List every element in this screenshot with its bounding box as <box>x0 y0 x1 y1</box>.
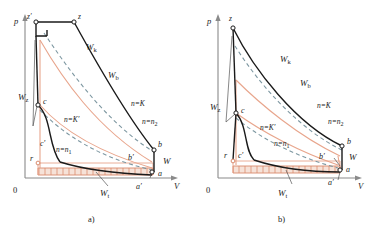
point-label-r: r <box>224 151 228 160</box>
panel-a-plot: p V 0 z′ z c c′ b b′ a a′ r Wk Wb Wz Wt … <box>0 0 188 235</box>
work-label-Wt: Wt <box>100 188 110 199</box>
point-label-b: b <box>158 140 162 149</box>
point-label-b: b <box>347 137 351 146</box>
work-label-Wz: Wz <box>210 102 221 113</box>
point-label-r: r <box>30 154 34 163</box>
work-label-W: W <box>349 152 358 162</box>
cycle-outline <box>233 28 342 172</box>
axis-label-V: V <box>174 181 181 191</box>
curve-label-n-equals-K: n=K <box>317 101 332 110</box>
hatched-work-band <box>38 163 153 175</box>
point-label-c: c <box>241 106 245 115</box>
marker-a <box>150 170 154 174</box>
curve-label-n-equals-n2: n=n2 <box>328 117 344 127</box>
panel-b-plot: p V 0 z c c′ b b′ a a′ r Wk Wb Wz Wt W n… <box>188 0 376 235</box>
marker-a <box>338 168 342 172</box>
work-label-W: W <box>163 156 172 166</box>
curve-label-n-equals-K: n=K <box>131 99 146 108</box>
point-label-c: c <box>43 97 47 106</box>
figure-sheet: p V 0 z′ z c c′ b b′ a a′ r Wk Wb Wz Wt … <box>0 0 376 235</box>
curve-label-n-equals-n2: n=n2 <box>142 117 158 127</box>
point-label-a-prime: a′ <box>136 182 142 191</box>
curve-label-n-equals-K-prime: n=K′ <box>260 123 276 132</box>
work-label-Wt: Wt <box>278 188 288 199</box>
axis-label-p: p <box>13 16 18 26</box>
work-label-Wz: Wz <box>18 92 29 103</box>
panel-a-caption: a) <box>88 214 95 224</box>
panel-b-caption: b) <box>278 214 285 224</box>
point-label-c-prime: c′ <box>238 151 244 160</box>
work-label-Wk: Wk <box>280 54 292 65</box>
marker-r <box>231 159 235 163</box>
marker-b <box>152 148 156 152</box>
point-label-b-prime: b′ <box>128 153 134 162</box>
axis-label-p: p <box>206 16 211 26</box>
state-point-markers <box>231 26 344 172</box>
point-label-c-prime: c′ <box>40 139 46 148</box>
marker-b <box>340 144 344 148</box>
marker-c <box>36 103 40 107</box>
marker-c <box>234 111 238 115</box>
axis-origin-label: 0 <box>206 185 210 195</box>
point-label-a: a <box>158 169 162 178</box>
point-label-z-prime: z′ <box>26 12 32 21</box>
marker-z <box>72 20 76 24</box>
work-label-Wb: Wb <box>108 70 119 81</box>
point-label-b-prime: b′ <box>319 152 325 161</box>
marker-z <box>231 26 235 30</box>
state-point-markers <box>34 20 156 174</box>
panel-a: p V 0 z′ z c c′ b b′ a a′ r Wk Wb Wz Wt … <box>0 0 188 235</box>
work-label-Wk: Wk <box>86 42 98 53</box>
curve-label-n-equals-n1: n=n1 <box>56 145 72 155</box>
point-label-a: a <box>346 165 350 174</box>
axis-origin-label: 0 <box>13 185 17 195</box>
point-label-z: z <box>77 12 81 21</box>
curve-label-n-equals-n1: n=n1 <box>274 139 290 149</box>
axis-label-V: V <box>358 181 365 191</box>
curve-label-n-equals-K-prime: n=K′ <box>64 115 80 124</box>
point-label-z: z <box>228 14 232 23</box>
panel-b: p V 0 z c c′ b b′ a a′ r Wk Wb Wz Wt W n… <box>188 0 376 235</box>
marker-z-prime <box>34 20 38 24</box>
work-label-Wb: Wb <box>300 78 311 89</box>
point-label-a-prime: a′ <box>328 178 334 187</box>
marker-r <box>36 161 40 165</box>
